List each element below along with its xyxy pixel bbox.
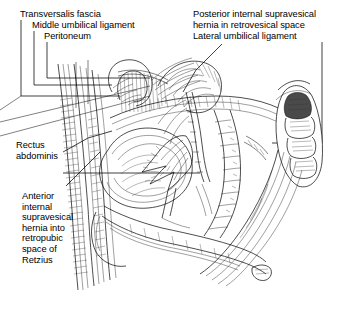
peritoneal-reflection (110, 96, 296, 130)
sacrum-vertebrae (276, 81, 323, 187)
pelvic-sagittal-drawing (58, 58, 323, 290)
lateral-umbilical-ligament (158, 92, 210, 182)
label-rectus-abdominis: Rectus abdominis (16, 140, 58, 161)
anatomical-figure: .ln {fill:none;stroke:#000;stroke-width:… (0, 0, 351, 322)
label-peritoneum: Peritoneum (44, 31, 91, 42)
bowel-loop-superior (108, 58, 200, 106)
vessels-ureter (162, 184, 212, 228)
posterior-supravesical-hernia (244, 136, 268, 160)
label-middle-umbilical-ligament: Middle umbilical ligament (32, 20, 135, 31)
label-posterior-internal-supravesical-hernia: Posterior internal supravesical hernia i… (193, 9, 316, 30)
label-lateral-umbilical-ligament: Lateral umbilical ligament (193, 31, 297, 42)
label-transversalis-fascia: Transversalis fascia (20, 9, 101, 20)
label-anterior-internal-supravesical-hernia: Anterior internal supravesical hernia in… (22, 191, 73, 265)
rectum (204, 110, 241, 238)
